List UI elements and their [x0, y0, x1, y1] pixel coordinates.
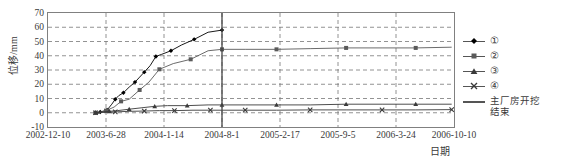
x-tick-label: 2005-9-5 — [321, 130, 356, 140]
y-tick-label: 10 — [35, 94, 45, 104]
y-tick-label: 50 — [35, 37, 45, 47]
x-tick-label: 2003-6-28 — [86, 130, 126, 140]
x-tick-label: 2002-12-10 — [26, 130, 70, 140]
legend-label-4: ④ — [486, 81, 499, 92]
legend-item-4[interactable]: ④ — [462, 81, 579, 93]
y-tick-label: 20 — [35, 79, 45, 89]
x-tick-label: 2006-3-24 — [376, 130, 416, 140]
chart-plot-svg — [48, 13, 454, 127]
x-tick-label: 2006-10-10 — [432, 130, 476, 140]
x-tick-label: 2004-1-14 — [144, 130, 184, 140]
y-tick-label: 40 — [35, 51, 45, 61]
y-tick-label: 0 — [39, 108, 44, 118]
legend-square-icon — [462, 51, 486, 63]
y-tick-label: 30 — [35, 65, 45, 75]
legend-item-2[interactable]: ② — [462, 51, 579, 63]
y-tick-label: 60 — [35, 22, 45, 32]
legend-label-1: ① — [486, 36, 499, 47]
legend-item-3[interactable]: ③ — [462, 66, 579, 78]
x-tick-label: 2004-8-1 — [205, 130, 240, 140]
legend-cross-icon — [462, 81, 486, 93]
y-axis-title: 位移/mm — [5, 21, 20, 91]
legend-solid-line-icon — [462, 96, 486, 108]
legend-item-1[interactable]: ① — [462, 36, 579, 48]
legend-label-2: ② — [486, 51, 499, 62]
legend-label-marker-line: 主厂房开挖结束 — [486, 96, 548, 118]
legend-triangle-icon — [462, 66, 486, 78]
legend-diamond-icon — [462, 36, 486, 48]
plot-area: 706050403020100-10 2002-12-102003-6-2820… — [47, 12, 455, 128]
legend-label-3: ③ — [486, 66, 499, 77]
x-tick-label: 2005-2-17 — [260, 130, 300, 140]
chart-screenshot: 位移/mm 日期 706050403020100-10 2002-12-1020… — [0, 0, 579, 160]
legend-item-marker-line[interactable]: 主厂房开挖结束 — [462, 96, 579, 120]
chart-legend: ① ② ③ ④ 主厂房开挖结束 — [462, 36, 579, 123]
x-axis-title: 日期 — [430, 143, 450, 158]
y-tick-label: 70 — [35, 8, 45, 18]
